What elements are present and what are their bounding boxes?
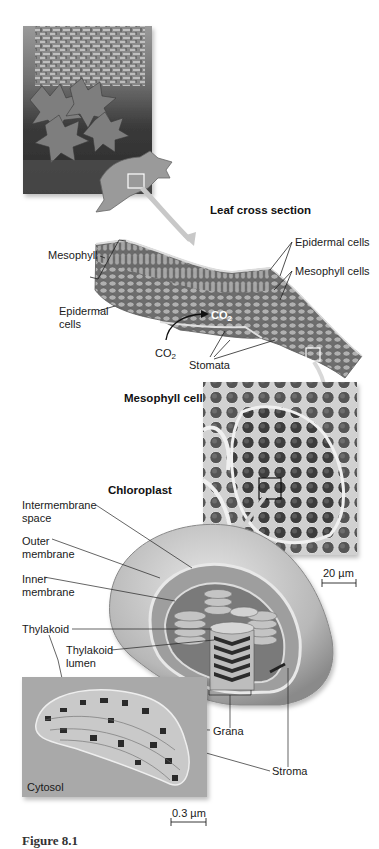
- label-epidermal-cells-left-line2: cells: [59, 318, 81, 331]
- label-mesophyll-cells: Mesophyll cells: [295, 265, 370, 278]
- label-mesophyll: Mesophyll: [48, 249, 98, 262]
- chloroplast-title: Chloroplast: [108, 484, 172, 496]
- label-co2-inside: CO2: [211, 309, 232, 325]
- scale-bar-0-3um: [171, 818, 206, 826]
- label-epidermal-cells-left-line1: Epidermal: [59, 305, 109, 318]
- label-co2-outside: CO2: [155, 347, 176, 363]
- label-stroma: Stroma: [272, 765, 307, 778]
- label-thylakoid-lumen-line1: Thylakoid: [66, 644, 113, 657]
- zoom-arrow-1: [142, 188, 190, 240]
- label-grana: Grana: [213, 725, 244, 738]
- figure-caption-partial: Figure 8.1: [22, 833, 78, 849]
- mesophyll-cell-title: Mesophyll cell: [124, 392, 203, 404]
- label-outer-membrane-line2: membrane: [22, 548, 75, 561]
- label-stomata: Stomata: [189, 359, 230, 372]
- label-inner-membrane-line1: Inner: [22, 573, 47, 586]
- label-intermembrane-space-line2: space: [22, 512, 51, 525]
- label-thylakoid: Thylakoid: [22, 623, 69, 636]
- label-outer-membrane-line1: Outer: [22, 535, 50, 548]
- leaf-cross-section-title: Leaf cross section: [210, 204, 311, 216]
- scale-bar-20um: [322, 579, 356, 587]
- label-inner-membrane-line2: membrane: [22, 586, 75, 599]
- label-cytosol: Cytosol: [27, 781, 64, 794]
- label-thylakoid-lumen-line2: lumen: [66, 657, 96, 670]
- scale-label-0-3um: 0.3 µm: [172, 807, 206, 819]
- granum-center-back: [204, 590, 232, 615]
- label-epidermal-cells-right: Epidermal cells: [295, 236, 370, 249]
- label-intermembrane-space-line1: Intermembrane: [22, 499, 97, 512]
- scale-label-20um: 20 µm: [323, 567, 354, 579]
- granum-cutaway: [210, 622, 254, 690]
- tem-micrograph: [22, 677, 207, 797]
